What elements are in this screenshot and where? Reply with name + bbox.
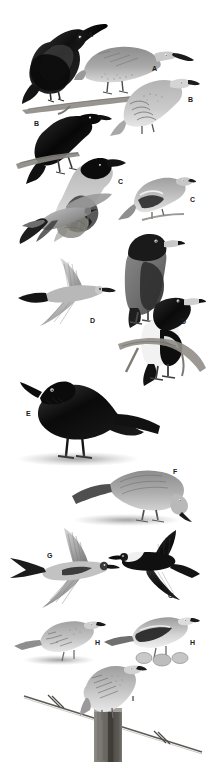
label-a-2: A xyxy=(152,65,157,72)
label-d-1: D xyxy=(151,252,156,259)
figure-b-pale-perched xyxy=(110,66,200,136)
label-g-1: G xyxy=(47,552,52,559)
figure-c-small-barred xyxy=(118,166,196,224)
figure-h-pipit-right xyxy=(104,608,200,666)
label-d-2: D xyxy=(90,317,95,324)
fence-post xyxy=(94,708,122,762)
label-f-1: F xyxy=(173,468,177,475)
label-h-1: H xyxy=(95,639,100,646)
label-d-3: D xyxy=(181,318,186,325)
bird-plate: A A B B C C D D D E F G G H H I xyxy=(0,0,210,768)
label-e-1: E xyxy=(26,410,31,417)
label-b-2: B xyxy=(34,120,39,127)
label-b-1: B xyxy=(188,96,193,103)
label-h-2: H xyxy=(190,639,195,646)
label-i-1: I xyxy=(132,695,134,702)
figure-g-swallow xyxy=(10,524,122,610)
figure-d-flight-upper xyxy=(14,192,116,248)
figure-g-martin xyxy=(108,530,202,606)
label-a-1: A xyxy=(88,31,93,38)
label-c-1: C xyxy=(118,178,123,185)
label-c-2: C xyxy=(190,196,195,203)
figure-d-flight-lower xyxy=(16,256,118,330)
figure-i-bushlark xyxy=(20,664,206,762)
label-g-2: G xyxy=(168,592,173,599)
